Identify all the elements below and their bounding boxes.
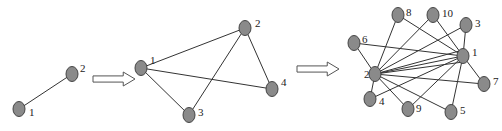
edge-2-3 — [189, 28, 245, 115]
edge-2-1 — [375, 56, 463, 74]
node-label-2: 2 — [255, 17, 261, 29]
node-7 — [478, 77, 490, 92]
graph-stage-3: 12345678910 — [348, 6, 499, 120]
edge-1-2 — [141, 28, 245, 68]
edge-2-4 — [245, 28, 272, 89]
edge-fan-1 — [375, 62, 463, 74]
edge-1-4 — [141, 68, 272, 89]
node-2 — [239, 21, 251, 36]
node-label-2: 2 — [80, 62, 86, 74]
node-label-4: 4 — [281, 76, 287, 88]
node-1 — [457, 49, 469, 64]
edge-1-3 — [141, 68, 189, 115]
node-label-10: 10 — [442, 7, 454, 19]
node-8 — [392, 8, 404, 23]
node-6 — [348, 36, 360, 51]
node-label-3: 3 — [198, 106, 204, 118]
node-label-7: 7 — [493, 75, 499, 87]
arrow-stage-2-to-3-icon — [297, 62, 339, 76]
node-1 — [13, 102, 25, 117]
node-3 — [183, 108, 195, 123]
node-label-2: 2 — [364, 68, 370, 80]
node-4 — [364, 92, 376, 107]
graph-stage-2: 1234 — [135, 17, 287, 123]
node-1 — [135, 61, 147, 76]
edge-2-10 — [375, 15, 433, 74]
edge-10-1 — [433, 15, 463, 56]
node-4 — [266, 82, 278, 97]
node-9 — [402, 102, 414, 117]
node-3 — [460, 18, 472, 33]
node-label-1: 1 — [472, 46, 478, 58]
edge-2-8 — [375, 15, 398, 74]
node-label-5: 5 — [460, 104, 466, 116]
node-label-1: 1 — [29, 106, 35, 118]
graph-growth-diagram: 12123412345678910 — [0, 0, 502, 131]
graph-stage-1: 12 — [13, 62, 86, 118]
node-label-1: 1 — [150, 54, 156, 66]
edge-1-2 — [19, 74, 72, 109]
node-5 — [445, 105, 457, 120]
node-label-6: 6 — [362, 33, 368, 45]
node-label-8: 8 — [406, 6, 412, 18]
node-label-3: 3 — [475, 17, 481, 29]
arrow-stage-1-to-2-icon — [93, 72, 135, 86]
node-10 — [427, 8, 439, 23]
node-label-4: 4 — [379, 95, 385, 107]
node-2 — [66, 67, 78, 82]
node-label-9: 9 — [416, 102, 422, 114]
node-2 — [369, 67, 381, 82]
